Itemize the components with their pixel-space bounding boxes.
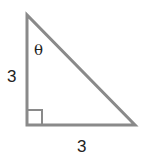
vertical-side-label: 3 — [7, 67, 16, 86]
triangle-shape — [27, 15, 135, 125]
right-triangle-diagram: 3 3 θ — [0, 0, 147, 157]
angle-theta-label: θ — [34, 41, 43, 59]
right-angle-marker — [27, 110, 42, 125]
horizontal-side-label: 3 — [77, 137, 86, 156]
